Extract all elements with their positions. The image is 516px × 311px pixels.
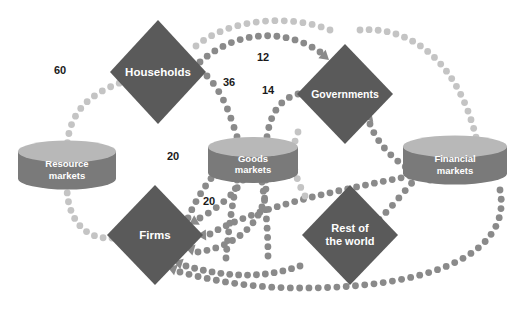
node-resource-markets-label: markets	[49, 170, 85, 181]
flow-value-36: 36	[223, 76, 235, 88]
node-governments: Governments	[297, 44, 393, 144]
flow-value-20-upper: 20	[167, 150, 179, 162]
node-households: Households	[110, 20, 206, 124]
flow-value-20-lower: 20	[203, 195, 215, 207]
node-firms-label: Firms	[139, 229, 170, 241]
node-households-label: Households	[125, 66, 191, 78]
node-financial-markets: Financialmarkets	[403, 136, 507, 185]
flow-goods-markets-down-left	[223, 177, 241, 262]
node-goods-markets: Goodsmarkets	[208, 137, 298, 183]
circular-flow-diagram: HouseholdsGovernmentsFirmsRest ofthe wor…	[0, 0, 516, 311]
node-financial-markets-label: markets	[437, 165, 473, 176]
node-rest-of-the-world-label: the world	[326, 235, 375, 247]
flow-value-12: 12	[257, 51, 269, 63]
flow-canvas: HouseholdsGovernmentsFirmsRest ofthe wor…	[0, 0, 516, 311]
node-governments-label: Governments	[311, 88, 379, 100]
flow-value-60: 60	[54, 64, 66, 76]
node-rest-of-the-world: Rest ofthe world	[302, 185, 398, 285]
flow-value-14: 14	[262, 84, 275, 96]
flow-goods-markets-down-right	[259, 179, 272, 260]
node-rest-of-the-world-label: Rest of	[331, 222, 369, 234]
node-resource-markets-label: Resource	[45, 158, 88, 169]
node-financial-markets-label: Financial	[434, 153, 475, 164]
node-goods-markets-label: Goods	[238, 153, 268, 164]
node-goods-markets-label: markets	[235, 164, 271, 175]
node-firms: Firms	[107, 185, 203, 285]
node-resource-markets: Resourcemarkets	[18, 141, 116, 190]
